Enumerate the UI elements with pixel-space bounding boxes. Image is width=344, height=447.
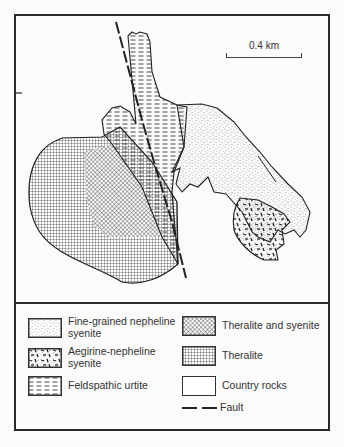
legend-label-cont: syenite bbox=[68, 357, 101, 369]
legend-label: Feldspathic urtite bbox=[68, 380, 148, 392]
legend-item-fine-grained-nepheline-syenite: Fine-grained nepheline syenite bbox=[28, 316, 175, 339]
legend-item-theralite: Theralite bbox=[182, 346, 263, 366]
legend-item-country-rocks: Country rocks bbox=[182, 376, 287, 396]
legend-label: Country rocks bbox=[222, 380, 287, 392]
legend-item-aegirine-nepheline-syenite: Aegirine-nepheline syenite bbox=[28, 346, 156, 369]
legend-label-cont: syenite bbox=[68, 327, 101, 339]
legend-label: Theralite bbox=[222, 350, 263, 362]
crosshatch-swatch-icon bbox=[182, 316, 216, 336]
stipple-swatch-icon bbox=[28, 318, 62, 338]
scale-label: 0.4 km bbox=[226, 40, 302, 51]
legend-label: Aegirine-nepheline bbox=[68, 345, 156, 357]
aegirine-swatch-icon bbox=[28, 348, 62, 368]
legend-label: Fine-grained nepheline bbox=[68, 315, 175, 327]
legend-item-fault: Fault bbox=[182, 402, 243, 414]
fault-line-icon bbox=[182, 407, 218, 409]
scale-bar-line bbox=[226, 53, 302, 58]
dashes-swatch-icon bbox=[28, 376, 62, 396]
legend-item-feldspathic-urtite: Feldspathic urtite bbox=[28, 376, 148, 396]
legend: Fine-grained nepheline syenite Aegirine-… bbox=[16, 304, 328, 429]
legend-label: Fault bbox=[220, 402, 243, 414]
legend-item-theralite-and-syenite: Theralite and syenite bbox=[182, 316, 319, 336]
grid-swatch-icon bbox=[182, 346, 216, 366]
geological-map: 0.4 km bbox=[16, 16, 328, 303]
blank-swatch-icon bbox=[182, 376, 216, 396]
scale-bar: 0.4 km bbox=[226, 40, 302, 58]
map-frame: 0.4 km Fine-grained nepheline syenite Ae… bbox=[14, 14, 330, 431]
map-drawing bbox=[16, 16, 328, 303]
legend-label: Theralite and syenite bbox=[222, 320, 319, 332]
